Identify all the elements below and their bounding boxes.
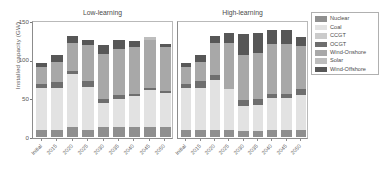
bar-segment <box>296 95 307 130</box>
bar-stack <box>238 34 249 137</box>
legend-item[interactable]: OCGT <box>314 40 376 48</box>
legend-swatch-icon <box>315 25 327 31</box>
bar-segment <box>36 130 47 137</box>
x-tick-mark <box>164 139 165 141</box>
legend-swatch-icon <box>315 42 327 48</box>
bar-segment <box>51 55 62 62</box>
chart-figure: Installed capacity (GW) 050100150 Low-le… <box>0 0 382 174</box>
bar-stack <box>129 41 140 137</box>
bar-segment <box>210 36 221 43</box>
bar-stack <box>144 36 155 137</box>
bar-segment <box>160 93 171 127</box>
panel-high-learning: High-learning <box>177 21 308 139</box>
bar-stack <box>253 33 264 137</box>
bar-stack <box>210 36 221 137</box>
bar-segment <box>67 43 78 71</box>
panel-title-high-learning: High-learning <box>178 9 307 16</box>
y-tick-label: 50 <box>7 96 29 102</box>
x-tick-mark <box>200 139 201 141</box>
legend-item-label: Wind-Onshore <box>330 50 366 56</box>
x-tick-mark <box>228 139 229 141</box>
bar-segment <box>195 62 206 81</box>
bar-segment <box>181 130 192 137</box>
y-tick-label: 100 <box>7 57 29 63</box>
legend-swatch-icon <box>315 16 327 22</box>
bar-stack <box>181 63 192 137</box>
bar-segment <box>113 99 124 127</box>
bar-segment <box>281 130 292 137</box>
bar-segment <box>67 127 78 137</box>
bar-segment <box>296 130 307 137</box>
bar-segment <box>296 46 307 89</box>
bar-stack <box>296 36 307 137</box>
bar-segment <box>253 53 264 99</box>
legend-item[interactable]: Wind-Offshore <box>314 65 376 73</box>
bar-segment <box>181 88 192 130</box>
legend-item-label: Wind-Offshore <box>330 67 366 73</box>
bar-segment <box>195 81 206 88</box>
legend-item-label: OCGT <box>330 42 346 48</box>
bar-segment <box>51 62 62 82</box>
legend-item-label: Coal <box>330 25 342 31</box>
y-tick-label: 0 <box>7 135 29 141</box>
legend-item-label: Nuclear <box>330 16 349 22</box>
bar-segment <box>160 127 171 137</box>
bar-segment <box>224 130 235 137</box>
legend-item[interactable]: CCGT <box>314 32 376 40</box>
legend-item[interactable]: Coal <box>314 23 376 31</box>
chart-legend: NuclearCoalCCGTOCGTWind-OnshoreSolarWind… <box>311 12 379 75</box>
bar-segment <box>181 67 192 85</box>
legend-item[interactable]: Nuclear <box>314 15 376 23</box>
bar-stack <box>51 55 62 137</box>
x-tick-mark <box>185 139 186 141</box>
x-tick-mark <box>243 139 244 141</box>
plot-area-high-learning <box>179 23 306 137</box>
legend-item[interactable]: Wind-Onshore <box>314 49 376 57</box>
legend-item-label: CCGT <box>330 33 346 39</box>
x-tick-mark <box>72 139 73 141</box>
x-tick-mark <box>103 139 104 141</box>
x-tick-mark <box>300 139 301 141</box>
bar-segment <box>51 130 62 137</box>
bar-segment <box>82 130 93 137</box>
legend-swatch-icon <box>315 50 327 56</box>
bar-segment <box>267 44 278 93</box>
legend-item-label: Solar <box>330 58 343 64</box>
bar-stack <box>36 63 47 137</box>
bar-stack <box>195 55 206 137</box>
bar-segment <box>144 40 155 88</box>
bar-segment <box>281 98 292 130</box>
bar-segment <box>296 37 307 46</box>
bar-segment <box>129 127 140 137</box>
bar-segment <box>113 127 124 137</box>
bar-stack <box>67 36 78 137</box>
bar-stack <box>224 33 235 137</box>
x-tick-mark <box>286 139 287 141</box>
bar-segment <box>267 98 278 130</box>
bar-segment <box>238 106 249 131</box>
x-tick-mark <box>118 139 119 141</box>
bar-segment <box>210 130 221 137</box>
bar-segment <box>129 47 140 93</box>
bar-segment <box>210 43 221 75</box>
legend-swatch-icon <box>315 67 327 73</box>
x-tick-mark <box>271 139 272 141</box>
plot-area-low-learning <box>34 23 171 137</box>
bar-segment <box>267 130 278 137</box>
x-tick-mark <box>149 139 150 141</box>
x-tick-mark <box>214 139 215 141</box>
bar-segment <box>144 127 155 137</box>
x-tick-mark <box>257 139 258 141</box>
bar-segment <box>144 90 155 127</box>
bar-segment <box>113 40 124 49</box>
bar-stack <box>98 45 109 137</box>
bar-segment <box>67 36 78 43</box>
x-tick-mark <box>133 139 134 141</box>
bar-segment <box>238 34 249 55</box>
bar-segment <box>281 30 292 44</box>
legend-item[interactable]: Solar <box>314 57 376 65</box>
bar-stack <box>267 30 278 137</box>
bar-segment <box>224 89 235 130</box>
bar-segment <box>36 88 47 130</box>
x-tick-mark <box>87 139 88 141</box>
